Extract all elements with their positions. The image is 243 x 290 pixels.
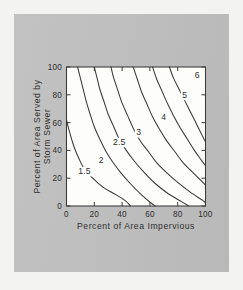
y-tick-label: 80 — [52, 91, 62, 100]
contour-label-5: 5 — [182, 90, 187, 100]
y-axis-title-line-1: Percent of Area Served by — [32, 79, 42, 193]
x-tick-label: 80 — [173, 210, 183, 219]
contour-plot: 0204060801000204060801001.522.53456Perce… — [0, 0, 243, 290]
y-tick-label: 100 — [48, 63, 63, 72]
x-tick-label: 40 — [117, 210, 127, 219]
contour-label-1.5: 1.5 — [78, 166, 91, 176]
y-tick-label: 20 — [52, 174, 62, 183]
x-tick-label: 20 — [90, 210, 100, 219]
contour-label-2: 2 — [99, 155, 104, 165]
x-tick-label: 60 — [145, 210, 155, 219]
contour-label-6: 6 — [195, 70, 200, 80]
figure-root: 0204060801000204060801001.522.53456Perce… — [0, 0, 243, 290]
x-axis-title: Percent of Area Impervious — [77, 221, 195, 231]
y-axis-title-line-2: Storm Sewer — [42, 109, 52, 165]
contour-label-3: 3 — [136, 127, 141, 137]
contour-label-2.5: 2.5 — [113, 137, 126, 147]
x-tick-label: 0 — [64, 210, 69, 219]
contour-label-4: 4 — [161, 112, 166, 122]
y-tick-label: 60 — [52, 119, 62, 128]
y-tick-label: 0 — [57, 202, 62, 211]
x-tick-label: 100 — [198, 210, 213, 219]
y-tick-label: 40 — [52, 146, 62, 155]
